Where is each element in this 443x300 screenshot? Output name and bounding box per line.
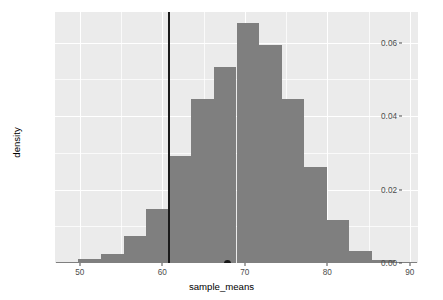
- y-axis-title: density: [11, 113, 22, 173]
- x-tick-label: 50: [75, 268, 84, 277]
- gridline-x-major: [410, 12, 411, 263]
- y-tick-mark: [399, 189, 402, 190]
- histogram-bar: [56, 262, 79, 263]
- x-tick-label: 60: [158, 268, 167, 277]
- histogram-bar: [349, 251, 372, 263]
- histogram-bar: [394, 262, 417, 263]
- histogram-bar: [281, 99, 304, 263]
- gridline-x-minor: [369, 12, 370, 263]
- x-tick-mark: [409, 263, 410, 266]
- y-tick-label: 0.06: [381, 38, 397, 47]
- histogram-bar: [146, 209, 169, 263]
- histogram-bar: [214, 67, 237, 263]
- gridline-x-major: [80, 12, 81, 263]
- histogram-bar: [169, 156, 192, 263]
- reference-vline: [168, 12, 171, 263]
- x-tick-mark: [162, 263, 163, 266]
- x-tick-mark: [79, 263, 80, 266]
- y-tick-label: 0.02: [381, 185, 397, 194]
- x-tick-label: 80: [323, 268, 332, 277]
- x-tick-mark: [244, 263, 245, 266]
- x-tick-label: 90: [405, 268, 414, 277]
- y-tick-mark: [399, 263, 402, 264]
- histogram-bar: [237, 23, 260, 263]
- histogram-bar: [191, 99, 214, 263]
- histogram-bar: [259, 45, 282, 263]
- histogram-bar: [327, 220, 350, 263]
- y-tick-label: 0.04: [381, 112, 397, 121]
- x-axis-title: sample_means: [0, 281, 443, 292]
- observed-point-marker: [224, 260, 231, 264]
- x-tick-mark: [327, 263, 328, 266]
- histogram-bar: [78, 259, 101, 263]
- histogram-bar: [304, 167, 327, 263]
- y-tick-label: 0.00: [381, 259, 397, 268]
- y-tick-mark: [399, 42, 402, 43]
- histogram-bar: [124, 236, 147, 263]
- gridline-x-minor: [121, 12, 122, 263]
- x-tick-label: 70: [240, 268, 249, 277]
- plot-panel: [55, 12, 418, 263]
- histogram-bar: [101, 254, 124, 263]
- histogram-plot: 0.000.020.040.06 5060708090 sample_means…: [0, 0, 443, 300]
- y-tick-mark: [399, 116, 402, 117]
